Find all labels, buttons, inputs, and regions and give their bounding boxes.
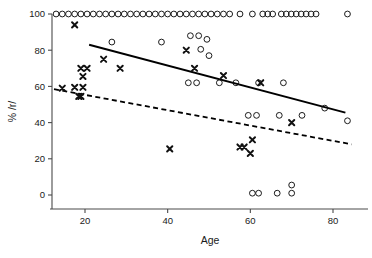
y-tick-label: 100 (29, 8, 45, 19)
y-tick-label: 0 (40, 189, 45, 200)
y-axis-label: % /r/ (6, 101, 18, 123)
x-tick-label: 20 (80, 215, 91, 226)
plot-background (0, 0, 372, 258)
x-axis-label: Age (201, 234, 220, 246)
chart-figure: 020406080100 20406080 Age % /r/ (0, 0, 372, 258)
y-tick-label: 40 (34, 117, 45, 128)
x-tick-label: 80 (328, 215, 339, 226)
y-tick-label: 80 (34, 45, 45, 56)
y-tick-label: 20 (34, 153, 45, 164)
x-tick-label: 40 (162, 215, 173, 226)
x-tick-label: 60 (245, 215, 256, 226)
scatter-plot: 020406080100 20406080 Age % /r/ (0, 0, 372, 258)
y-tick-label: 60 (34, 81, 45, 92)
